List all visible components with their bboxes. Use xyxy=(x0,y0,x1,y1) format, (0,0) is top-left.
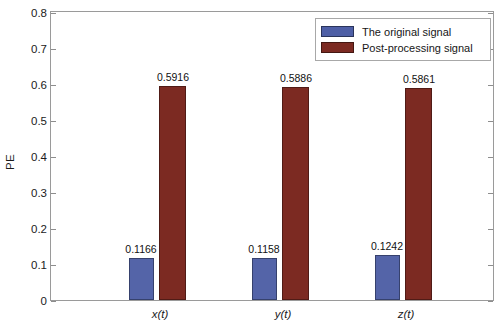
y-tick-mark-0.8 xyxy=(51,13,56,14)
bar-original-signal-x xyxy=(129,258,154,300)
bar-post-processing-x xyxy=(159,86,186,300)
y-tick-mark-right-0.6 xyxy=(488,85,493,86)
bar-value-label-original-x: 0.1166 xyxy=(125,243,156,255)
plot-area: 0.8 0.7 0.6 0.5 0.4 0.3 0.2 0.1 0 0.116 xyxy=(50,11,494,301)
bar-original-signal-y xyxy=(252,258,277,300)
y-tick-mark-0.1 xyxy=(51,265,56,266)
y-tick-mark-right-0.5 xyxy=(488,121,493,122)
y-tick-label-0.3: 0.3 xyxy=(3,187,47,199)
y-tick-mark-0.7 xyxy=(51,49,56,50)
y-tick-mark-right-0.8 xyxy=(488,13,493,14)
y-tick-mark-right-0.1 xyxy=(488,265,493,266)
y-tick-label-0.4: 0.4 xyxy=(3,151,47,163)
y-tick-label-0.5: 0.5 xyxy=(3,115,47,127)
bar-original-signal-z xyxy=(375,255,400,300)
y-tick-mark-right-0.2 xyxy=(488,229,493,230)
x-axis-label-y: y(t) xyxy=(275,308,292,320)
legend-swatch-original-signal xyxy=(321,26,354,37)
y-tick-mark-0.5 xyxy=(51,121,56,122)
y-tick-mark-0 xyxy=(51,301,56,302)
y-tick-mark-0.2 xyxy=(51,229,56,230)
y-tick-mark-0.4 xyxy=(51,157,56,158)
legend-label-post-processing-signal: Post-processing signal xyxy=(362,42,473,54)
y-tick-label-0.7: 0.7 xyxy=(3,43,47,55)
y-tick-label-0.8: 0.8 xyxy=(3,7,47,19)
bar-post-processing-z xyxy=(405,88,432,300)
legend-entry-post-processing-signal: Post-processing signal xyxy=(321,40,485,55)
y-tick-mark-0.6 xyxy=(51,85,56,86)
bar-chart-figure: PE 0.8 0.7 0.6 0.5 0.4 0.3 0.2 0.1 0 xyxy=(0,0,499,323)
y-tick-mark-right-0.3 xyxy=(488,193,493,194)
bar-value-label-post-z: 0.5861 xyxy=(403,73,435,85)
y-tick-mark-right-0 xyxy=(488,301,493,302)
bar-value-label-post-y: 0.5886 xyxy=(280,72,312,84)
bar-post-processing-y xyxy=(282,87,309,300)
y-tick-mark-right-0.4 xyxy=(488,157,493,158)
bar-value-label-original-y: 0.1158 xyxy=(248,243,279,255)
legend-swatch-post-processing-signal xyxy=(321,42,354,53)
y-tick-label-0.2: 0.2 xyxy=(3,223,47,235)
x-axis-label-x: x(t) xyxy=(152,308,169,320)
x-axis-label-z: z(t) xyxy=(398,308,415,320)
bar-value-label-post-x: 0.5916 xyxy=(157,71,189,83)
y-tick-label-0.1: 0.1 xyxy=(3,259,47,271)
y-tick-mark-0.3 xyxy=(51,193,56,194)
bar-value-label-original-z: 0.1242 xyxy=(371,240,403,252)
y-tick-label-0: 0 xyxy=(3,295,47,307)
legend-label-original-signal: The original signal xyxy=(362,26,451,38)
chart-legend: The original signal Post-processing sign… xyxy=(315,18,491,61)
y-tick-label-0.6: 0.6 xyxy=(3,79,47,91)
legend-entry-original-signal: The original signal xyxy=(321,24,485,39)
